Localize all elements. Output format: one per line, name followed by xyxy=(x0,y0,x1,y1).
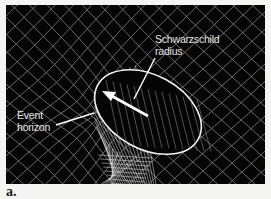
warped-grid-graphic xyxy=(6,5,265,184)
schwarzschild-label-line2: radius xyxy=(155,46,182,57)
subfigure-label: a. xyxy=(6,184,17,199)
event-horizon-label-line1: Event xyxy=(17,110,43,121)
event-horizon-label-line2: horizon xyxy=(17,122,50,133)
spacetime-diagram: Schwarzschild radius Event horizon xyxy=(6,5,265,184)
schwarzschild-label-line1: Schwarzschild xyxy=(155,34,220,45)
